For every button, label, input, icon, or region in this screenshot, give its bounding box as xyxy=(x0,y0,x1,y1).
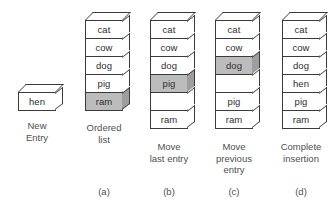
box-cell-pig: pig xyxy=(85,74,123,93)
box-cell-hen: hen xyxy=(18,92,56,111)
box-cell-label: ram xyxy=(293,115,310,125)
box-cell-ram: ram xyxy=(85,92,123,111)
box-cell-label: ram xyxy=(96,97,113,107)
box-cell-dog: dog xyxy=(282,56,320,75)
box-cell-pig: pig xyxy=(215,92,253,111)
box-cell-cow: cow xyxy=(85,38,123,57)
box-cell-label: cat xyxy=(98,25,111,35)
box-cell-label: dog xyxy=(161,61,177,71)
box-cell-empty xyxy=(150,92,188,111)
figure-canvas: hen New Entry cat cow dog pig xyxy=(0,0,329,212)
box-top-face xyxy=(215,12,261,20)
box-cell-hen: hen xyxy=(282,74,320,93)
box-cell-cat: cat xyxy=(85,20,123,39)
box-cell-cat: cat xyxy=(150,20,188,39)
box-cell-cow: cow xyxy=(215,38,253,57)
box-cell-ram: ram xyxy=(282,110,320,129)
box-cell-label: pig xyxy=(295,97,308,107)
box-cell-cat: cat xyxy=(215,20,253,39)
box-cell-label: cow xyxy=(292,43,309,53)
box-cell-label: hen xyxy=(293,79,309,89)
stack-column: cat cow dog pig ram xyxy=(215,20,253,129)
box-cell-label: cat xyxy=(295,25,308,35)
box-cell-ram: ram xyxy=(150,110,188,129)
box-cell-label: ram xyxy=(161,115,178,125)
box-cell-label: cow xyxy=(225,43,242,53)
box-cell-ram: ram xyxy=(215,110,253,129)
panel-label-a: (a) xyxy=(84,186,124,197)
box-cell-label: pig xyxy=(98,79,111,89)
box-cell-label: dog xyxy=(96,61,112,71)
box-cell-cat: cat xyxy=(282,20,320,39)
box-cell-label: dog xyxy=(293,61,309,71)
stack-column: hen xyxy=(18,92,56,111)
box-stack-new-entry: hen xyxy=(18,92,56,111)
stack-column: cat cow dog pig ram xyxy=(85,20,123,111)
box-cell-pig: pig xyxy=(150,74,188,93)
box-cell-dog: dog xyxy=(215,56,253,75)
stack-column: cat cow dog hen pig ram xyxy=(282,20,320,129)
box-cell-label: cow xyxy=(160,43,177,53)
box-cell-dog: dog xyxy=(85,56,123,75)
box-cell-label: cat xyxy=(228,25,241,35)
box-cell-label: cow xyxy=(95,43,112,53)
box-stack-complete-insertion: cat cow dog hen pig ram xyxy=(282,20,320,129)
box-cell-label: hen xyxy=(29,97,45,107)
box-top-face xyxy=(18,84,64,92)
box-cell-label: dog xyxy=(226,61,242,71)
box-cell-label: pig xyxy=(228,97,241,107)
panel-label-c: (c) xyxy=(214,186,254,197)
box-stack-ordered-list: cat cow dog pig ram xyxy=(85,20,123,111)
box-cell-cow: cow xyxy=(150,38,188,57)
stack-column: cat cow dog pig ram xyxy=(150,20,188,129)
box-cell-cow: cow xyxy=(282,38,320,57)
box-stack-move-last-entry: cat cow dog pig ram xyxy=(150,20,188,129)
caption-complete-insertion: Complete insertion xyxy=(261,141,329,164)
panel-label-d: (d) xyxy=(281,186,321,197)
box-stack-move-previous-entry: cat cow dog pig ram xyxy=(215,20,253,129)
box-cell-pig: pig xyxy=(282,92,320,111)
panel-label-b: (b) xyxy=(149,186,189,197)
box-top-face xyxy=(150,12,196,20)
box-cell-label: pig xyxy=(163,79,176,89)
box-cell-label: ram xyxy=(226,115,243,125)
box-cell-label: cat xyxy=(163,25,176,35)
box-cell-dog: dog xyxy=(150,56,188,75)
box-top-face xyxy=(282,12,328,20)
box-top-face xyxy=(85,12,131,20)
box-cell-empty xyxy=(215,74,253,93)
